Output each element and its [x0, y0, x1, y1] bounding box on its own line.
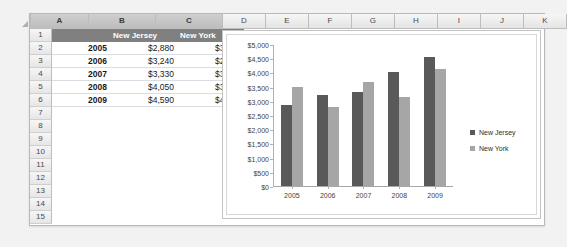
row-header-7[interactable]: 7 — [30, 107, 52, 120]
cell-a9[interactable] — [52, 133, 110, 146]
column-header-c[interactable]: C — [156, 14, 223, 29]
bar-group-2009 — [417, 45, 453, 186]
row-header-column: 123456789101112131415 — [30, 29, 52, 224]
bar-new-jersey-2008[interactable] — [388, 72, 399, 186]
cell-a6-year[interactable]: 2009 — [52, 94, 110, 107]
cell-a5-year[interactable]: 2008 — [52, 81, 110, 94]
row-header-13[interactable]: 13 — [30, 185, 52, 198]
cell-a1[interactable] — [52, 29, 110, 42]
cell-a8[interactable] — [52, 120, 110, 133]
cell-b13[interactable] — [110, 185, 177, 198]
row-header-12[interactable]: 12 — [30, 172, 52, 185]
cell-b15[interactable] — [110, 211, 177, 224]
bar-new-jersey-2006[interactable] — [317, 95, 328, 186]
y-tick-mark-4500 — [270, 59, 273, 60]
cell-a2-year[interactable]: 2005 — [52, 42, 110, 55]
x-tick-mark-2008 — [399, 186, 400, 189]
row-header-9[interactable]: 9 — [30, 133, 52, 146]
cell-b3-new-jersey[interactable]: $3,240 — [110, 55, 177, 68]
y-tick-mark-2500 — [270, 116, 273, 117]
cell-b12[interactable] — [110, 172, 177, 185]
y-tick-label-0: $0 — [227, 184, 269, 191]
bar-new-york-2005[interactable] — [292, 87, 303, 186]
bar-new-jersey-2009[interactable] — [424, 57, 435, 186]
row-header-10[interactable]: 10 — [30, 146, 52, 159]
cell-a3-year[interactable]: 2006 — [52, 55, 110, 68]
y-tick-mark-3000 — [270, 102, 273, 103]
y-tick-label-2500: $2,500 — [227, 113, 269, 120]
row-header-6[interactable]: 6 — [30, 94, 52, 107]
column-header-g[interactable]: G — [352, 14, 395, 29]
column-header-row: ABCDEFGHIJK — [30, 14, 544, 29]
y-tick-label-4000: $4,000 — [227, 70, 269, 77]
bar-group-2006 — [310, 45, 346, 186]
row-header-15[interactable]: 15 — [30, 211, 52, 224]
cell-b11[interactable] — [110, 159, 177, 172]
cell-b4-new-jersey[interactable]: $3,330 — [110, 68, 177, 81]
row-header-5[interactable]: 5 — [30, 81, 52, 94]
column-header-e[interactable]: E — [266, 14, 309, 29]
legend-item-new-jersey[interactable]: New Jersey — [470, 129, 516, 136]
cell-b2-new-jersey[interactable]: $2,880 — [110, 42, 177, 55]
bar-new-york-2008[interactable] — [399, 97, 410, 186]
cell-b7[interactable] — [110, 107, 177, 120]
x-tick-mark-2007 — [363, 186, 364, 189]
bar-new-jersey-2005[interactable] — [281, 105, 292, 186]
chart-legend[interactable]: New JerseyNew York — [470, 129, 516, 161]
cell-a14[interactable] — [52, 198, 110, 211]
column-header-f[interactable]: F — [309, 14, 352, 29]
cell-b9[interactable] — [110, 133, 177, 146]
select-all-cell[interactable] — [30, 14, 31, 29]
legend-item-new-york[interactable]: New York — [470, 145, 516, 152]
row-header-3[interactable]: 3 — [30, 55, 52, 68]
x-tick-mark-2009 — [435, 186, 436, 189]
y-tick-mark-1000 — [270, 159, 273, 160]
cell-b6-new-jersey[interactable]: $4,590 — [110, 94, 177, 107]
cell-b8[interactable] — [110, 120, 177, 133]
column-header-d[interactable]: D — [223, 14, 266, 29]
row-header-14[interactable]: 14 — [30, 198, 52, 211]
x-tick-label-2008: 2008 — [381, 192, 417, 199]
cell-b14[interactable] — [110, 198, 177, 211]
x-tick-mark-2006 — [328, 186, 329, 189]
embedded-bar-chart[interactable]: $5,000$4,500$4,000$3,500$3,000$2,500$2,0… — [222, 30, 541, 219]
cell-b5-new-jersey[interactable]: $4,050 — [110, 81, 177, 94]
spreadsheet-panel: ABCDEFGHIJK 123456789101112131415 New Je… — [29, 13, 545, 226]
x-tick-label-2006: 2006 — [310, 192, 346, 199]
cell-a4-year[interactable]: 2007 — [52, 68, 110, 81]
row-header-11[interactable]: 11 — [30, 159, 52, 172]
legend-swatch-new-jersey — [470, 130, 475, 135]
row-header-4[interactable]: 4 — [30, 68, 52, 81]
chart-plot-frame: $5,000$4,500$4,000$3,500$3,000$2,500$2,0… — [226, 34, 537, 215]
y-tick-label-2000: $2,000 — [227, 127, 269, 134]
row-header-1[interactable]: 1 — [30, 29, 52, 42]
x-tick-label-2005: 2005 — [274, 192, 310, 199]
column-header-j[interactable]: J — [481, 14, 524, 29]
row-header-8[interactable]: 8 — [30, 120, 52, 133]
column-header-k[interactable]: K — [524, 14, 567, 29]
column-header-a[interactable]: A — [31, 14, 89, 29]
cell-a11[interactable] — [52, 159, 110, 172]
cell-b10[interactable] — [110, 146, 177, 159]
column-header-i[interactable]: I — [438, 14, 481, 29]
cell-a12[interactable] — [52, 172, 110, 185]
bar-new-york-2009[interactable] — [435, 69, 446, 186]
y-tick-label-4500: $4,500 — [227, 56, 269, 63]
y-tick-mark-3500 — [270, 88, 273, 89]
cell-a7[interactable] — [52, 107, 110, 120]
x-tick-label-2007: 2007 — [346, 192, 382, 199]
y-tick-label-3000: $3,000 — [227, 98, 269, 105]
bar-new-york-2006[interactable] — [328, 107, 339, 186]
x-tick-mark-2005 — [292, 186, 293, 189]
row-header-2[interactable]: 2 — [30, 42, 52, 55]
cell-a13[interactable] — [52, 185, 110, 198]
legend-swatch-new-york — [470, 146, 475, 151]
cell-a10[interactable] — [52, 146, 110, 159]
cell-b1-new-jersey-header[interactable]: New Jersey — [110, 29, 177, 42]
y-tick-mark-0 — [270, 187, 273, 188]
bar-new-jersey-2007[interactable] — [352, 92, 363, 186]
column-header-h[interactable]: H — [395, 14, 438, 29]
column-header-b[interactable]: B — [89, 14, 156, 29]
bar-new-york-2007[interactable] — [363, 82, 374, 186]
cell-a15[interactable] — [52, 211, 110, 224]
